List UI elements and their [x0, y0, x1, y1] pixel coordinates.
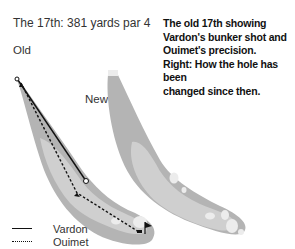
new-bunker — [221, 210, 229, 220]
new-tee — [108, 70, 118, 76]
legend: Vardon Ouimet — [12, 222, 88, 248]
hole-cup — [137, 230, 142, 233]
new-bunker — [238, 229, 244, 235]
vardon-ball — [84, 179, 89, 184]
old-bunker — [111, 218, 121, 225]
legend-label: Ouimet — [53, 236, 88, 248]
legend-label: Vardon — [53, 223, 88, 235]
solid-line-icon — [12, 228, 32, 229]
new-bunker — [170, 173, 179, 184]
hole-map — [0, 0, 295, 249]
legend-item-ouimet: Ouimet — [12, 235, 88, 248]
new-bunker — [182, 187, 187, 193]
legend-item-vardon: Vardon — [12, 222, 88, 235]
new-green — [226, 219, 238, 233]
dotted-line-icon — [12, 241, 32, 242]
new-bunker — [205, 213, 215, 220]
tee-marker — [15, 77, 19, 81]
